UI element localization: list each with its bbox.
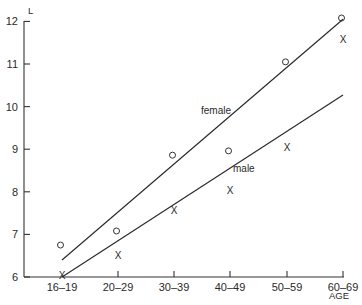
y-tick-label: 11 <box>7 58 18 70</box>
x-marker-male: X <box>59 270 66 281</box>
y-tick-label: 10 <box>6 101 18 113</box>
y-tick-label: 9 <box>12 143 18 155</box>
y-tick-label: 8 <box>12 186 18 198</box>
x-marker-male: X <box>171 205 178 216</box>
line-fit-chart: 6789101112 16–1920–2930–3940–4950–5960–6… <box>0 0 362 305</box>
x-marker-male: X <box>284 142 291 153</box>
y-ticks: 6789101112 <box>6 15 30 283</box>
x-axis-label: AGE <box>329 290 349 301</box>
x-tick-label: 16–19 <box>47 281 78 293</box>
fit-line-male <box>62 95 343 277</box>
data-markers: XXXXXX <box>58 15 347 281</box>
x-marker-male: X <box>340 34 347 45</box>
circle-marker-female <box>283 59 289 65</box>
x-tick-label: 30–39 <box>159 281 190 293</box>
x-tick-label: 20–29 <box>103 281 134 293</box>
y-tick-label: 7 <box>12 228 18 240</box>
y-tick-label: 12 <box>6 15 18 27</box>
fit-line-female <box>62 19 343 260</box>
series-label-male: male <box>233 163 255 174</box>
fit-lines <box>62 19 343 277</box>
y-axis-label: L <box>28 5 33 16</box>
x-tick-label: 40–49 <box>215 281 246 293</box>
circle-marker-female <box>58 242 64 248</box>
circle-marker-female <box>114 228 120 234</box>
circle-marker-female <box>170 152 176 158</box>
series-label-female: female <box>201 105 231 116</box>
x-ticks: 16–1920–2930–3940–4950–5960–69 <box>47 271 359 293</box>
y-tick-label: 6 <box>12 271 18 283</box>
x-marker-male: X <box>227 185 234 196</box>
x-marker-male: X <box>115 250 122 261</box>
circle-marker-female <box>226 148 232 154</box>
x-tick-label: 50–59 <box>272 281 303 293</box>
